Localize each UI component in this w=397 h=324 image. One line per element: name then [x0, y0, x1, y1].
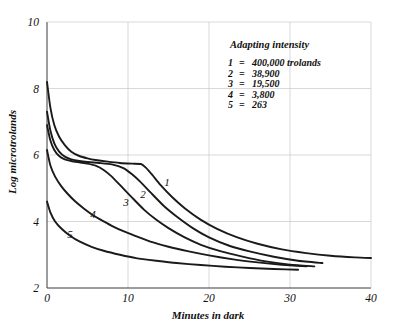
- x-tick-label: 0: [44, 292, 50, 304]
- legend-key-1: 1: [228, 57, 233, 68]
- x-tick-label: 40: [365, 292, 377, 304]
- legend-equals-3: =: [239, 78, 245, 89]
- legend-equals-2: =: [239, 68, 245, 79]
- legend-equals-1: =: [239, 57, 245, 68]
- curve-label-5: 5: [67, 228, 73, 240]
- x-axis-title: Minutes in dark: [171, 309, 245, 321]
- y-tick-label: 6: [33, 149, 39, 161]
- y-tick-label: 2: [33, 282, 39, 294]
- curve-label-1: 1: [164, 176, 170, 188]
- legend-value-2: 38,900: [251, 68, 280, 79]
- dark-adaptation-chart: 010203040 246810 12345 Minutes in dark L…: [0, 0, 397, 324]
- curve-label-4: 4: [90, 208, 96, 220]
- curve-label-2: 2: [140, 188, 146, 200]
- legend-equals-5: =: [239, 99, 245, 110]
- legend-value-4: 3,800: [251, 89, 275, 100]
- legend-value-5: 263: [251, 99, 267, 110]
- y-axis-title: Log microtrolands: [6, 110, 18, 195]
- x-tick-label: 10: [122, 292, 134, 304]
- legend-key-2: 2: [227, 68, 233, 79]
- legend-key-3: 3: [227, 78, 233, 89]
- legend-key-4: 4: [227, 89, 233, 100]
- y-tick-label: 8: [33, 83, 39, 95]
- curve-label-3: 3: [122, 196, 129, 208]
- y-tick-label: 10: [28, 16, 40, 28]
- chart-background: [0, 0, 397, 324]
- legend-value-1: 400,000 trolands: [251, 57, 321, 68]
- y-tick-label: 4: [33, 216, 39, 228]
- x-tick-label: 30: [283, 292, 296, 304]
- legend-key-5: 5: [228, 99, 233, 110]
- legend-equals-4: =: [239, 89, 245, 100]
- legend-value-3: 19,500: [252, 78, 280, 89]
- legend-title: Adapting intensity: [229, 39, 309, 50]
- chart-canvas: 010203040 246810 12345 Minutes in dark L…: [0, 0, 397, 324]
- x-tick-label: 20: [203, 292, 215, 304]
